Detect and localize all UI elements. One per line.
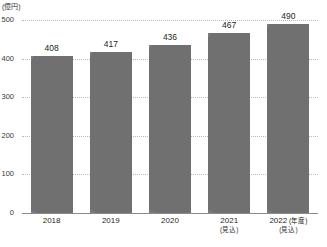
x-tick-note: (見込) xyxy=(200,226,259,234)
bar-value-label: 436 xyxy=(163,33,177,42)
bar-slot: 417 xyxy=(81,20,140,213)
x-tick-label: 2021(見込) xyxy=(200,216,259,234)
x-axis-labels: 2018201920202021(見込)2022 (年度)(見込) xyxy=(22,216,318,247)
bar-slot: 490 xyxy=(259,20,318,213)
bar-value-label: 467 xyxy=(222,21,236,30)
y-tick-label: 0 xyxy=(0,209,14,217)
bar-value-label: 417 xyxy=(104,40,118,49)
bar-slot: 408 xyxy=(22,20,81,213)
bar-chart: (億円) 408417436467490 0100200300400500 20… xyxy=(0,0,327,247)
x-tick-label: 2020 xyxy=(140,216,199,226)
bar-slot: 436 xyxy=(140,20,199,213)
y-tick-label: 300 xyxy=(0,93,14,101)
bar xyxy=(90,52,132,213)
bar-value-label: 408 xyxy=(45,44,59,53)
bar-series: 408417436467490 xyxy=(22,20,318,213)
x-tick-note: (見込) xyxy=(259,226,318,234)
y-axis-unit-label: (億円) xyxy=(2,3,21,11)
bar-slot: 467 xyxy=(200,20,259,213)
x-tick-label: 2018 xyxy=(22,216,81,226)
bar-value-label: 490 xyxy=(281,12,295,21)
bar xyxy=(31,56,73,213)
bar xyxy=(267,24,309,213)
y-tick-label: 100 xyxy=(0,170,14,178)
bar xyxy=(208,33,250,213)
bar xyxy=(149,45,191,213)
x-tick-label: 2022 (年度)(見込) xyxy=(259,216,318,234)
y-tick-label: 200 xyxy=(0,132,14,140)
plot-area: 408417436467490 xyxy=(22,20,318,213)
x-tick-label: 2019 xyxy=(81,216,140,226)
y-tick-label: 500 xyxy=(0,16,14,24)
y-tick-label: 400 xyxy=(0,55,14,63)
x-axis-unit-note: (年度) xyxy=(287,217,307,224)
axis-baseline xyxy=(22,213,318,214)
